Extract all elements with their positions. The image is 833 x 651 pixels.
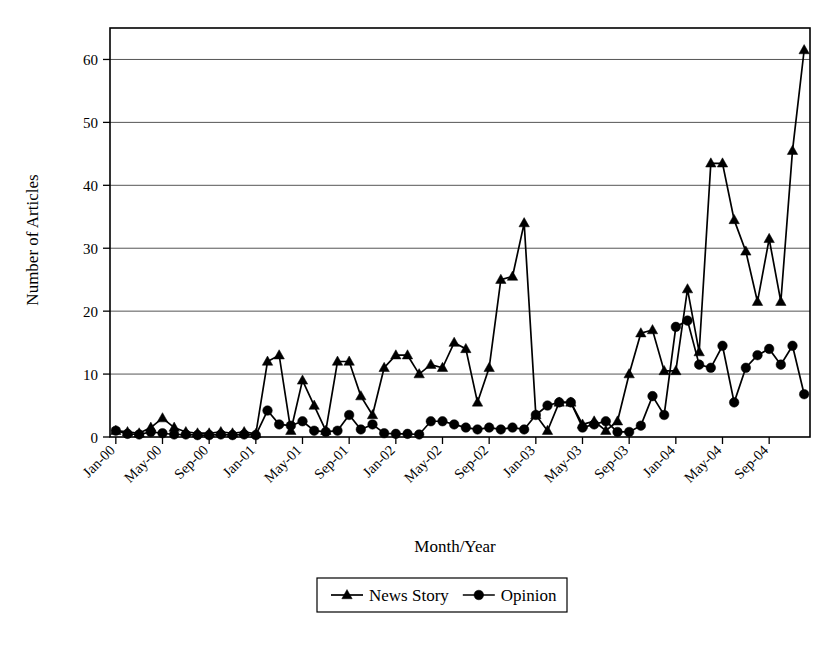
data-point-circle — [706, 363, 716, 373]
data-point-circle — [474, 590, 484, 600]
data-point-circle — [239, 430, 249, 440]
data-point-triangle — [612, 416, 622, 425]
data-point-circle — [799, 389, 809, 399]
data-point-circle — [123, 429, 133, 439]
data-point-circle — [519, 425, 529, 435]
data-point-circle — [344, 410, 354, 420]
data-point-triangle — [402, 350, 412, 359]
y-tick-label: 0 — [91, 430, 99, 446]
data-point-triangle — [461, 343, 471, 352]
data-point-circle — [648, 391, 658, 401]
data-point-triangle — [682, 284, 692, 293]
data-point-triangle — [671, 365, 681, 374]
x-tick-label: Jan-01 — [219, 442, 258, 481]
x-tick-label: May-00 — [121, 442, 165, 486]
x-tick-label: Sep-01 — [311, 442, 351, 482]
data-point-circle — [158, 428, 168, 438]
data-point-triangle — [367, 410, 377, 419]
x-tick-label: Sep-03 — [591, 442, 631, 482]
data-point-circle — [449, 420, 459, 430]
data-point-triangle — [332, 356, 342, 365]
x-tick-label: May-04 — [681, 441, 725, 485]
x-axis-title: Month/Year — [414, 537, 496, 556]
data-point-circle — [321, 427, 331, 437]
data-point-circle — [169, 430, 179, 440]
data-point-circle — [776, 360, 786, 370]
data-point-circle — [204, 430, 214, 440]
data-series — [111, 45, 810, 440]
data-point-circle — [134, 430, 144, 440]
data-point-circle — [589, 420, 599, 430]
y-axis-ticks: 0102030405060 — [83, 52, 110, 446]
data-point-circle — [228, 430, 238, 440]
plot-frame — [110, 28, 810, 437]
y-tick-label: 60 — [83, 52, 98, 68]
data-point-circle — [508, 423, 518, 433]
x-tick-label: Jan-02 — [359, 442, 398, 481]
data-point-triangle — [274, 350, 284, 359]
series-line — [116, 50, 804, 434]
data-point-circle — [601, 416, 611, 426]
data-point-circle — [496, 425, 506, 435]
y-tick-label: 30 — [83, 241, 98, 257]
x-tick-label: May-01 — [261, 442, 305, 486]
x-tick-label: Sep-04 — [731, 441, 772, 482]
data-point-triangle — [776, 296, 786, 305]
data-point-circle — [543, 401, 553, 411]
x-tick-label: May-02 — [401, 442, 445, 486]
data-point-triangle — [297, 375, 307, 384]
data-point-circle — [729, 398, 739, 408]
data-point-circle — [438, 416, 448, 426]
series-line — [116, 321, 804, 436]
plot-border — [110, 28, 810, 437]
legend-label: Opinion — [501, 586, 557, 605]
y-tick-label: 50 — [83, 115, 98, 131]
data-point-triangle — [426, 359, 436, 368]
data-point-triangle — [741, 246, 751, 255]
data-point-triangle — [344, 356, 354, 365]
data-point-circle — [461, 423, 471, 433]
data-point-triangle — [262, 356, 272, 365]
data-point-circle — [578, 423, 588, 433]
data-point-circle — [718, 341, 728, 351]
data-point-circle — [554, 398, 564, 408]
data-point-circle — [683, 316, 693, 326]
data-point-triangle — [157, 413, 167, 422]
data-point-circle — [111, 426, 121, 436]
data-point-triangle — [659, 365, 669, 374]
y-tick-label: 10 — [83, 367, 98, 383]
x-tick-label: Jan-03 — [499, 442, 538, 481]
data-point-triangle — [717, 158, 727, 167]
data-point-triangle — [787, 145, 797, 154]
data-point-triangle — [342, 590, 352, 599]
data-point-circle — [764, 344, 774, 354]
data-point-circle — [426, 416, 436, 426]
data-point-circle — [146, 427, 156, 437]
data-point-circle — [741, 363, 751, 373]
x-tick-label: Jan-00 — [79, 442, 118, 481]
chart-legend: News StoryOpinion — [317, 578, 567, 612]
data-point-triangle — [764, 233, 774, 242]
data-point-circle — [484, 423, 494, 433]
chart-canvas: 0102030405060 Jan-00May-00Sep-00Jan-01Ma… — [0, 0, 833, 651]
data-point-circle — [659, 410, 669, 420]
data-point-circle — [274, 420, 284, 430]
data-point-circle — [193, 430, 203, 440]
data-point-circle — [788, 341, 798, 351]
data-point-circle — [181, 430, 191, 440]
chart-figure: 0102030405060 Jan-00May-00Sep-00Jan-01Ma… — [0, 0, 833, 651]
data-point-circle — [379, 428, 389, 438]
x-tick-label: Jan-04 — [639, 441, 678, 480]
data-point-circle — [624, 427, 634, 437]
data-point-circle — [263, 406, 273, 416]
data-point-circle — [613, 427, 623, 437]
series-opinion — [111, 316, 809, 440]
data-point-triangle — [752, 296, 762, 305]
data-point-triangle — [624, 369, 634, 378]
y-tick-label: 20 — [83, 304, 98, 320]
x-axis-ticks: Jan-00May-00Sep-00Jan-01May-01Sep-01Jan-… — [79, 437, 772, 486]
data-point-circle — [566, 398, 576, 408]
x-tick-label: May-03 — [541, 442, 585, 486]
y-tick-label: 40 — [83, 178, 98, 194]
data-point-circle — [531, 410, 541, 420]
